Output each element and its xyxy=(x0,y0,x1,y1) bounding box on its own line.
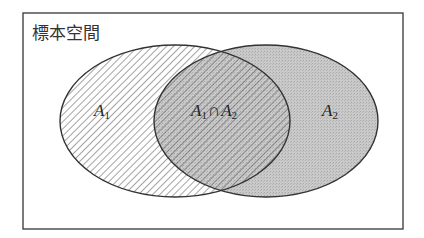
venn-diagram: 標本空間 A1 A1∩A2 A2 xyxy=(0,0,424,238)
set-a1-subscript: 1 xyxy=(104,109,110,121)
set-a2-name: A xyxy=(322,101,332,120)
set-a1-label: A1 xyxy=(94,101,110,121)
set-a2-subscript: 2 xyxy=(332,109,338,121)
set-a2-label: A2 xyxy=(322,101,338,121)
intersection-right-name: A xyxy=(221,101,231,120)
intersection-left-name: A xyxy=(191,101,201,120)
intersection-right-subscript: 2 xyxy=(232,109,238,121)
intersection-label: A1∩A2 xyxy=(191,101,237,121)
set-a1-name: A xyxy=(94,101,104,120)
intersection-left-subscript: 1 xyxy=(201,109,207,121)
intersection-operator: ∩ xyxy=(208,101,220,120)
sample-space-label: 標本空間 xyxy=(32,19,100,44)
